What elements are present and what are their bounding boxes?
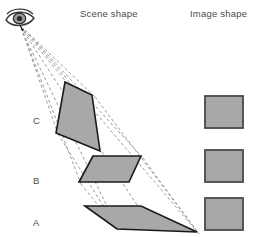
scene-shape-b bbox=[79, 156, 141, 182]
ray-a-right bbox=[25, 30, 199, 234]
row-label-c: C bbox=[33, 115, 40, 126]
ray-c-right bbox=[25, 30, 95, 97]
image-shape-c bbox=[205, 96, 243, 128]
scene-shape-a bbox=[85, 206, 197, 232]
row-label-b: B bbox=[33, 175, 39, 186]
perspective-projection-figure: Scene shape Image shape C B A bbox=[0, 0, 261, 237]
column-header-scene-shape: Scene shape bbox=[80, 8, 138, 19]
projection-rays bbox=[23, 30, 199, 234]
row-label-a: A bbox=[33, 217, 39, 228]
ray-c-top bbox=[24, 31, 68, 84]
eye-icon bbox=[6, 9, 34, 31]
image-shape-a bbox=[205, 198, 243, 230]
image-shape-b bbox=[205, 150, 243, 182]
column-header-image-shape: Image shape bbox=[190, 8, 247, 19]
